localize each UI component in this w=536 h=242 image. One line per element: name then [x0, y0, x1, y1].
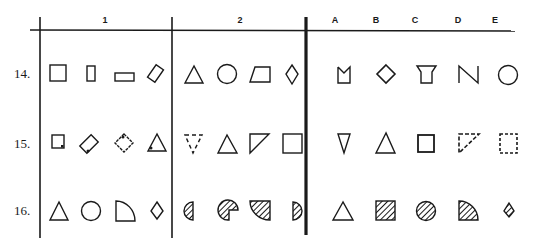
row14-E-circle-icon [499, 66, 518, 85]
row16-g1-triangle-icon [50, 202, 68, 220]
row14-g2-circle-icon [218, 65, 237, 84]
row14-g2-trapezoid-icon [250, 67, 270, 82]
header-group-2: 2 [237, 15, 242, 25]
row16-g2-hatched-half-circle-left-icon [184, 202, 193, 220]
row16-C-hatched-circle-icon [417, 202, 436, 221]
row14-A-notched-rect-icon [338, 67, 350, 83]
row16-g1-circle-icon [82, 202, 101, 221]
row14-g1-wide-rect-icon [115, 73, 134, 81]
row-label-16: 16. [14, 203, 30, 219]
header-answer-d: D [455, 15, 462, 25]
grid-lines [0, 0, 536, 242]
row15-B-triangle-icon [376, 133, 395, 153]
row14-g2-diamond-icon [286, 65, 298, 84]
row16-E-hatched-kite-icon [504, 203, 514, 217]
row14-g1-square-icon [50, 65, 66, 81]
row-label-14: 14. [14, 66, 30, 82]
row16-g2-hatched-pacman-icon [218, 200, 238, 220]
header-answer-c: C [412, 15, 419, 25]
row16-A-triangle-icon [333, 202, 353, 220]
row15-g1-tilted-rect-dot-icon [80, 135, 98, 153]
row16-D-hatched-quarter-circle-icon [459, 201, 478, 220]
row16-B-hatched-square-icon [376, 201, 395, 220]
row14-C-inv-trapezoid-icon [417, 66, 436, 83]
row14-B-diamond-icon [377, 65, 395, 83]
row16-g1-quarter-circle-icon [116, 201, 135, 221]
row16-g2-hatched-quarter-circle-icon [250, 201, 270, 220]
header-answer-a: A [332, 15, 339, 25]
row-label-15: 15. [14, 136, 30, 152]
row15-g2-square-icon [283, 134, 302, 153]
row16-g1-kite-icon [151, 202, 163, 219]
row16-g2-hatched-half-circle-right-icon [293, 202, 302, 220]
header-answer-e: E [492, 15, 498, 25]
row15-E-dashed-square-icon [500, 134, 517, 153]
header-answer-b: B [373, 15, 380, 25]
row15-g1-diamond-dot-icon [115, 134, 133, 152]
row15-g2-right-triangle-icon [250, 134, 269, 153]
analogy-figure: 1 2 A B C D E 14. 15. 16. [0, 0, 536, 242]
row14-g2-triangle-icon [185, 66, 203, 83]
row14-g1-tall-rect-icon [87, 66, 95, 81]
row15-g1-triangle-dot-icon [148, 134, 166, 151]
row14-g1-tilted-rect-icon [148, 65, 164, 82]
row15-g1-square-dot-icon [52, 135, 64, 148]
header-group-1: 1 [102, 15, 107, 25]
row15-D-dashed-right-triangle-icon [459, 134, 479, 153]
row15-g2-dashed-inv-triangle-icon [185, 135, 202, 153]
row14-D-n-shape-icon [459, 66, 478, 83]
row15-A-inv-triangle-icon [338, 134, 350, 153]
row15-C-square-icon [418, 135, 434, 152]
row15-g2-triangle-icon [218, 135, 237, 153]
